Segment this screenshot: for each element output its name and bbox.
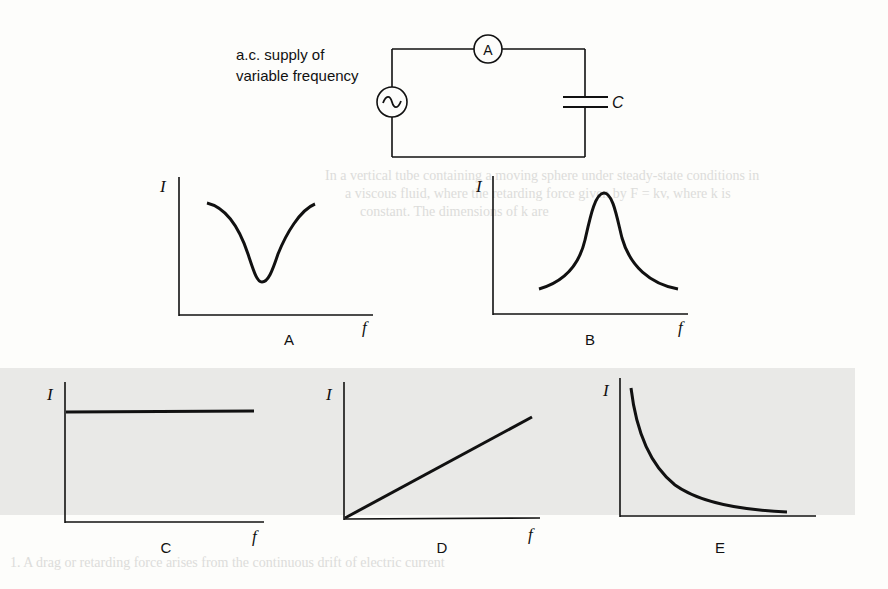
y-axis-label: I [475, 177, 483, 196]
physics-diagram: A C a.c. supply of variable frequency I … [0, 0, 888, 589]
y-axis-label: I [159, 177, 167, 196]
ammeter-label: A [483, 42, 493, 58]
graph-a: I f A [159, 177, 373, 348]
graph-e: I E [602, 378, 816, 556]
circuit-diagram [392, 49, 585, 157]
x-axis-label: f [252, 527, 259, 546]
graph-d: I f D [325, 382, 540, 556]
y-axis-label: I [46, 385, 54, 404]
x-axis-label: f [362, 318, 369, 337]
y-axis-label: I [602, 381, 610, 400]
capacitor-icon [563, 97, 608, 107]
graph-caption: E [715, 539, 725, 556]
x-axis-label: f [528, 525, 535, 544]
ac-source-icon [377, 87, 407, 117]
capacitor-label: C [612, 94, 624, 111]
x-axis-label: f [678, 318, 685, 337]
supply-label: a.c. supply of [236, 46, 325, 63]
supply-label: variable frequency [236, 67, 359, 84]
graph-c: I f C [46, 382, 264, 556]
graph-caption: B [585, 331, 595, 348]
graph-b: I f B [475, 176, 688, 348]
graph-caption: A [284, 331, 294, 348]
graph-caption: C [161, 539, 172, 556]
ammeter-icon: A [474, 35, 502, 63]
y-axis-label: I [325, 385, 333, 404]
graph-caption: D [437, 539, 448, 556]
